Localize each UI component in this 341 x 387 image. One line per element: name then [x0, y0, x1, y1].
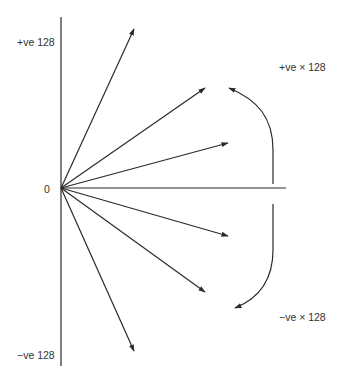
- label-top-axis: +ve 128: [17, 37, 55, 48]
- label-origin: 0: [44, 184, 50, 195]
- label-bottom-axis: −ve 128: [17, 350, 55, 361]
- diagram-canvas: +ve 128 0 −ve 128 +ve × 128 −ve × 128: [0, 0, 341, 387]
- label-positive-multiplier: +ve × 128: [279, 62, 326, 73]
- curved-arrow-negative: [235, 204, 273, 308]
- vector-up-steep: [61, 29, 134, 188]
- vector-up-mid: [61, 88, 205, 188]
- curved-arrow-positive: [229, 88, 273, 184]
- vector-down-shallow: [61, 188, 228, 236]
- vector-up-shallow: [61, 143, 228, 188]
- vector-down-mid: [61, 188, 205, 292]
- vector-down-steep: [61, 188, 134, 351]
- label-negative-multiplier: −ve × 128: [279, 312, 326, 323]
- vector-diagram: [0, 0, 341, 387]
